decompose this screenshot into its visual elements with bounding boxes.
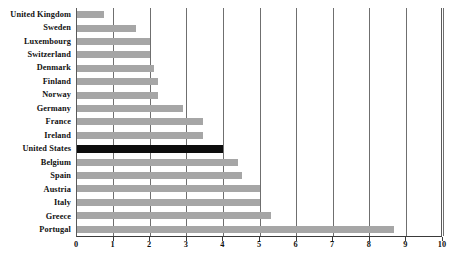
bar: [77, 185, 260, 192]
x-tick-label: 7: [330, 241, 334, 249]
category-label: Spain: [0, 170, 74, 183]
x-tick-label: 5: [257, 241, 261, 249]
category-axis-labels: United KingdomSwedenLuxembourgSwitzerlan…: [0, 8, 74, 237]
bar: [77, 212, 271, 219]
bar-row: [77, 115, 441, 128]
bar: [77, 38, 150, 45]
category-label: United States: [0, 143, 74, 156]
x-tick-label: 3: [184, 241, 188, 249]
bar: [77, 132, 203, 139]
category-label: France: [0, 116, 74, 129]
bar-row: [77, 88, 441, 101]
category-label: Greece: [0, 210, 74, 223]
x-tick-label: 2: [147, 241, 151, 249]
bar: [77, 78, 158, 85]
bar: [77, 25, 136, 32]
bar-row: [77, 62, 441, 75]
bar-row: [77, 102, 441, 115]
category-label: Luxembourg: [0, 35, 74, 48]
bar: [77, 51, 150, 58]
x-tick-label: 4: [220, 241, 224, 249]
category-label: Sweden: [0, 21, 74, 34]
x-tick-label: 9: [403, 241, 407, 249]
x-axis: 012345678910: [76, 237, 442, 255]
x-tick-label: 1: [111, 241, 115, 249]
category-label: Switzerland: [0, 48, 74, 61]
bar: [77, 159, 238, 166]
bar-row: [77, 155, 441, 168]
bar-highlighted: [77, 145, 223, 153]
bar-row: [77, 223, 441, 236]
bar-chart: United KingdomSwedenLuxembourgSwitzerlan…: [0, 0, 452, 255]
bar: [77, 199, 260, 206]
category-label: Belgium: [0, 156, 74, 169]
category-label: Austria: [0, 183, 74, 196]
category-label: Italy: [0, 197, 74, 210]
bar: [77, 172, 242, 179]
category-label: Norway: [0, 89, 74, 102]
bar-row: [77, 129, 441, 142]
bar: [77, 118, 203, 125]
category-label: United Kingdom: [0, 8, 74, 21]
plot-area: [76, 8, 442, 237]
bar: [77, 105, 183, 112]
bars-layer: [77, 8, 441, 236]
x-tick-label: 0: [74, 241, 78, 249]
x-tick-label: 8: [367, 241, 371, 249]
category-label: Finland: [0, 75, 74, 88]
bar-row: [77, 75, 441, 88]
bar-row: [77, 169, 441, 182]
bar: [77, 92, 158, 99]
category-label: Germany: [0, 102, 74, 115]
gridline: [443, 8, 444, 236]
category-label: Ireland: [0, 129, 74, 142]
bar-row: [77, 21, 441, 34]
bar-row: [77, 35, 441, 48]
bar-row: [77, 8, 441, 21]
bar: [77, 65, 154, 72]
category-label: Denmark: [0, 62, 74, 75]
bar-row: [77, 142, 441, 155]
bar: [77, 226, 394, 233]
category-label: Portugal: [0, 224, 74, 237]
x-tick-label: 6: [294, 241, 298, 249]
bar-row: [77, 182, 441, 195]
bar-row: [77, 196, 441, 209]
bar-row: [77, 209, 441, 222]
bar-row: [77, 48, 441, 61]
bar: [77, 11, 104, 18]
x-tick-label: 10: [438, 241, 446, 249]
